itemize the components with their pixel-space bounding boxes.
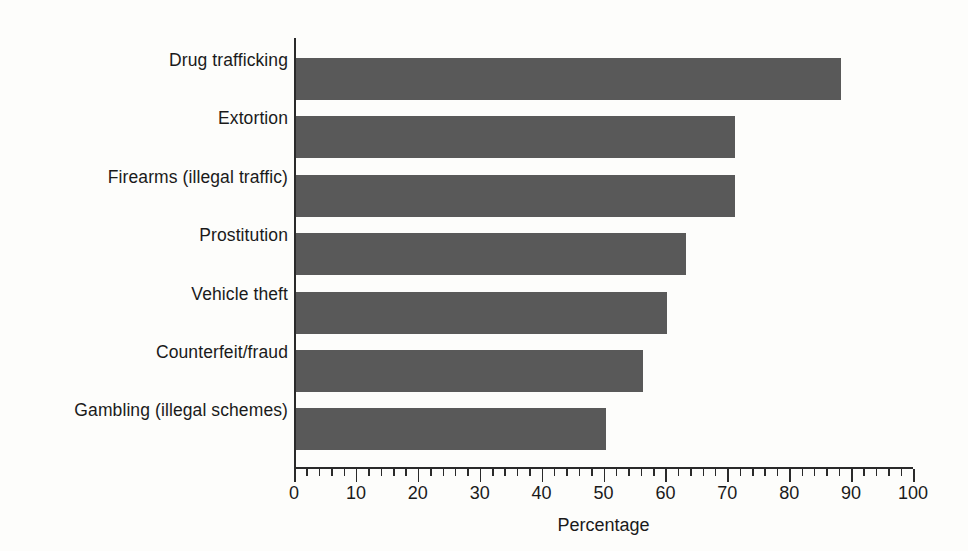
category-label: Counterfeit/fraud [0, 344, 288, 362]
x-tick-major [727, 469, 729, 482]
bar [296, 233, 686, 275]
x-tick-minor [777, 469, 779, 476]
x-tick-minor [678, 469, 680, 476]
category-label: Extortion [0, 110, 288, 128]
category-axis-labels: Drug traffickingExtortionFirearms (illeg… [0, 58, 288, 467]
x-axis-ticks [294, 469, 934, 483]
bar [296, 58, 841, 100]
x-tick-major [851, 469, 853, 482]
x-tick-label: 0 [289, 484, 299, 502]
x-tick-minor [715, 469, 717, 476]
x-tick-label: 70 [717, 484, 737, 502]
x-tick-minor [517, 469, 519, 476]
x-tick-minor [319, 469, 321, 476]
bar-chart: Drug traffickingExtortionFirearms (illeg… [0, 0, 968, 551]
x-tick-minor [628, 469, 630, 476]
category-label: Vehicle theft [0, 286, 288, 304]
x-tick-minor [331, 469, 333, 476]
plot-area [294, 38, 934, 467]
x-tick-major [480, 469, 482, 482]
x-tick-label: 30 [470, 484, 490, 502]
bar [296, 408, 606, 450]
x-tick-minor [876, 469, 878, 476]
x-axis-tick-labels: 0102030405060708090100 [294, 484, 934, 510]
x-tick-minor [641, 469, 643, 476]
bar [296, 292, 667, 334]
x-tick-major [542, 469, 544, 482]
x-tick-label: 80 [779, 484, 799, 502]
bar [296, 116, 735, 158]
x-tick-minor [839, 469, 841, 476]
x-tick-minor [653, 469, 655, 476]
x-tick-major [665, 469, 667, 482]
category-label: Drug trafficking [0, 52, 288, 70]
x-tick-minor [802, 469, 804, 476]
category-label: Firearms (illegal traffic) [0, 169, 288, 187]
x-tick-minor [826, 469, 828, 476]
x-tick-minor [579, 469, 581, 476]
x-tick-minor [554, 469, 556, 476]
x-tick-label: 20 [408, 484, 428, 502]
x-tick-minor [492, 469, 494, 476]
x-tick-minor [405, 469, 407, 476]
x-tick-minor [752, 469, 754, 476]
x-tick-minor [344, 469, 346, 476]
x-tick-minor [467, 469, 469, 476]
x-tick-minor [690, 469, 692, 476]
x-tick-major [604, 469, 606, 482]
x-tick-minor [740, 469, 742, 476]
x-tick-label: 90 [841, 484, 861, 502]
x-tick-minor [591, 469, 593, 476]
x-tick-minor [504, 469, 506, 476]
x-tick-minor [529, 469, 531, 476]
x-tick-minor [368, 469, 370, 476]
x-tick-label: 50 [593, 484, 613, 502]
x-tick-minor [616, 469, 618, 476]
x-tick-minor [703, 469, 705, 476]
bar [296, 350, 643, 392]
bar [296, 175, 735, 217]
x-tick-minor [901, 469, 903, 476]
x-tick-minor [814, 469, 816, 476]
x-tick-minor [393, 469, 395, 476]
x-tick-minor [888, 469, 890, 476]
x-tick-minor [443, 469, 445, 476]
category-label: Prostitution [0, 227, 288, 245]
x-tick-major [356, 469, 358, 482]
x-axis-title: Percentage [294, 516, 913, 534]
x-tick-major [789, 469, 791, 482]
x-tick-minor [306, 469, 308, 476]
x-tick-label: 40 [532, 484, 552, 502]
x-tick-minor [381, 469, 383, 476]
x-tick-major [294, 469, 296, 482]
category-label: Gambling (illegal schemes) [0, 402, 288, 420]
x-tick-minor [430, 469, 432, 476]
x-tick-label: 10 [346, 484, 366, 502]
x-tick-minor [863, 469, 865, 476]
x-tick-label: 100 [898, 484, 928, 502]
x-tick-label: 60 [655, 484, 675, 502]
x-tick-major [913, 469, 915, 482]
x-tick-minor [764, 469, 766, 476]
x-tick-minor [566, 469, 568, 476]
x-tick-major [418, 469, 420, 482]
x-tick-minor [455, 469, 457, 476]
